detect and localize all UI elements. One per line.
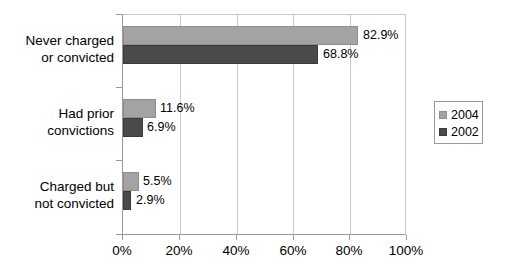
bar-2004-never-charged: [123, 26, 358, 45]
chart-legend: 2004 2002: [434, 101, 483, 144]
x-axis-tick-20: [179, 235, 180, 240]
legend-label-2004: 2004: [451, 108, 479, 122]
legend-swatch-icon-2004: [439, 111, 447, 119]
x-axis-tick-0: [122, 235, 123, 240]
bar-2002-had-prior: [123, 118, 143, 137]
category-label-charged-not-convicted: Charged but not convicted: [0, 178, 114, 212]
x-axis-label-80: 80%: [319, 243, 379, 259]
legend-item-2002: 2002: [439, 123, 482, 140]
bar-value-2004-had-prior: 11.6%: [160, 101, 195, 115]
category-row-had-prior: 11.6% 6.9%: [123, 87, 407, 161]
bar-value-2004-charged-not-convicted: 5.5%: [143, 174, 172, 188]
category-row-never-charged: 82.9% 68.8%: [123, 14, 407, 88]
bar-value-2002-never-charged: 68.8%: [323, 47, 358, 61]
y-axis-tick-2: [116, 160, 122, 161]
x-axis-tick-100: [406, 235, 407, 240]
x-axis-label-60: 60%: [263, 243, 323, 259]
x-axis-tick-60: [293, 235, 294, 240]
x-axis-label-0: 0%: [92, 243, 152, 259]
y-axis-tick-0: [116, 14, 122, 15]
x-axis-label-20: 20%: [149, 243, 209, 259]
bar-chart: 82.9% 68.8% Never charged or convicted 1…: [0, 0, 509, 277]
x-axis-label-100: 100%: [376, 243, 436, 259]
legend-item-2004: 2004: [439, 106, 482, 123]
bar-2002-charged-not-convicted: [123, 191, 131, 210]
bar-2004-had-prior: [123, 99, 156, 118]
category-label-never-charged: Never charged or convicted: [0, 32, 114, 66]
x-axis-tick-40: [236, 235, 237, 240]
legend-swatch-icon-2002: [439, 128, 447, 136]
category-label-had-prior: Had prior convictions: [0, 105, 114, 139]
legend-label-2002: 2002: [451, 125, 479, 139]
bar-2004-charged-not-convicted: [123, 172, 139, 191]
bar-value-2002-charged-not-convicted: 2.9%: [136, 193, 165, 207]
bar-2002-never-charged: [123, 45, 318, 64]
x-axis-tick-80: [349, 235, 350, 240]
bar-value-2002-had-prior: 6.9%: [147, 120, 176, 134]
y-axis-tick-1: [116, 87, 122, 88]
bar-value-2004-never-charged: 82.9%: [363, 28, 398, 42]
category-row-charged-not-convicted: 5.5% 2.9%: [123, 160, 407, 234]
x-axis-label-40: 40%: [206, 243, 266, 259]
